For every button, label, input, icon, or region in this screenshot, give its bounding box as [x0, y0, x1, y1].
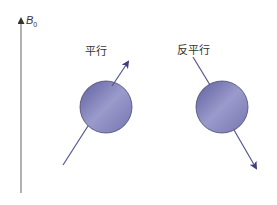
antiparallel-arrow-head [234, 130, 256, 168]
parallel-spin [63, 62, 132, 165]
antiparallel-arrow-tail [193, 57, 210, 85]
antiparallel-label: 反平行 [177, 41, 210, 57]
spin-diagram [0, 0, 277, 205]
antiparallel-sphere [196, 81, 248, 133]
parallel-arrow-head [112, 62, 128, 86]
parallel-label: 平行 [85, 42, 107, 58]
b0-subscript: 0 [33, 21, 37, 28]
parallel-sphere [80, 81, 132, 133]
b0-axis-label: B0 [26, 14, 37, 28]
antiparallel-spin [193, 57, 256, 168]
